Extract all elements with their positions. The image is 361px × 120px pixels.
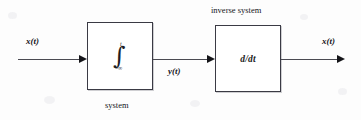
integral-icon: t ∫ −∞ [111, 42, 129, 70]
arrowhead-intermediate [207, 55, 215, 63]
signal-label-intermediate: y(t) [168, 66, 181, 76]
scan-speckle [338, 88, 347, 95]
signal-label-output: x(t) [322, 36, 335, 46]
scan-speckle [300, 14, 308, 20]
arrowhead-input [79, 55, 87, 63]
scan-speckle [190, 100, 200, 107]
integral-lower-limit: −∞ [115, 65, 122, 71]
scan-speckle [8, 12, 17, 19]
wire-output [281, 59, 343, 60]
diagram-canvas: inverse system x(t) t ∫ −∞ system y(t) d… [0, 0, 361, 120]
differentiator-label: d/dt [240, 54, 256, 64]
caption-system: system [105, 100, 129, 110]
scan-speckle [44, 96, 55, 104]
caption-inverse-system: inverse system [211, 5, 261, 15]
block-differentiator[interactable]: d/dt [215, 25, 281, 92]
wire-input [18, 59, 85, 60]
arrowhead-output [337, 55, 345, 63]
block-integrator[interactable]: t ∫ −∞ [87, 22, 153, 90]
wire-intermediate [153, 59, 213, 60]
signal-label-input: x(t) [26, 36, 39, 46]
